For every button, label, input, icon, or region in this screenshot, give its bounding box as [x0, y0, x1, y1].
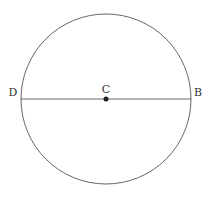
- circle-diagram: D C B: [0, 0, 211, 197]
- point-label-C: C: [102, 83, 110, 96]
- point-label-B: B: [194, 86, 202, 99]
- point-label-D: D: [9, 86, 18, 99]
- center-point-dot: [104, 97, 109, 102]
